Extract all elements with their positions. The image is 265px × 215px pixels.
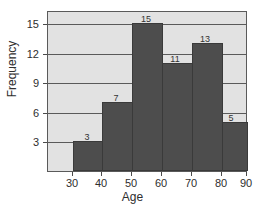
xtick-label-60: 60 bbox=[149, 177, 173, 190]
bar-50-60 bbox=[132, 23, 163, 171]
ytick-label-12: 12 bbox=[19, 48, 39, 61]
xtick-mark-60 bbox=[161, 172, 162, 176]
bar-label-30-40: 3 bbox=[73, 132, 101, 142]
xtick-label-70: 70 bbox=[179, 177, 203, 190]
xtick-label-40: 40 bbox=[89, 177, 113, 190]
ytick-mark-3 bbox=[43, 142, 47, 143]
bar-label-80-90: 5 bbox=[217, 113, 245, 123]
xtick-mark-70 bbox=[191, 172, 192, 176]
bar-label-40-50: 7 bbox=[102, 93, 130, 103]
xtick-mark-50 bbox=[131, 172, 132, 176]
xtick-label-90: 90 bbox=[234, 177, 258, 190]
ytick-label-6: 6 bbox=[19, 107, 39, 120]
xtick-label-50: 50 bbox=[119, 177, 143, 190]
bar-label-50-60: 15 bbox=[132, 14, 160, 24]
bar-40-50 bbox=[102, 102, 133, 171]
xtick-mark-80 bbox=[221, 172, 222, 176]
y-axis-title: Frequency bbox=[5, 19, 19, 119]
ytick-mark-9 bbox=[43, 83, 47, 84]
xtick-mark-40 bbox=[101, 172, 102, 176]
bar-60-70 bbox=[162, 63, 193, 171]
ytick-label-9: 9 bbox=[19, 77, 39, 90]
ytick-label-3: 3 bbox=[19, 136, 39, 149]
ytick-mark-15 bbox=[43, 24, 47, 25]
ytick-mark-6 bbox=[43, 113, 47, 114]
histogram-chart: 3 7 15 11 13 5 30 40 50 60 70 80 90 3 6 … bbox=[0, 0, 265, 215]
xtick-label-30: 30 bbox=[60, 177, 84, 190]
bar-30-40 bbox=[73, 141, 103, 171]
xtick-mark-90 bbox=[246, 172, 247, 176]
bar-label-60-70: 11 bbox=[161, 54, 189, 64]
bar-70-80 bbox=[192, 43, 223, 171]
x-axis-title: Age bbox=[0, 190, 265, 204]
bar-80-90 bbox=[222, 122, 248, 171]
xtick-mark-30 bbox=[72, 172, 73, 176]
bar-label-70-80: 13 bbox=[191, 34, 219, 44]
xtick-label-80: 80 bbox=[209, 177, 233, 190]
ytick-label-15: 15 bbox=[19, 18, 39, 31]
ytick-mark-12 bbox=[43, 54, 47, 55]
